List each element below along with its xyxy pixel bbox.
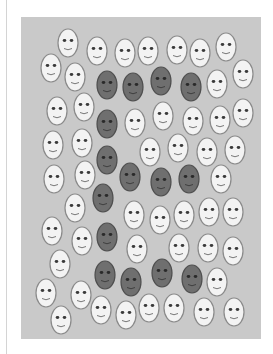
dark-face-icon — [94, 260, 116, 290]
light-face-icon — [124, 108, 146, 138]
light-face-icon — [152, 101, 174, 131]
light-face-icon — [182, 106, 204, 136]
dark-face-icon — [178, 164, 200, 194]
dark-face-icon — [180, 72, 202, 102]
dark-face-icon — [96, 145, 118, 175]
light-face-icon — [167, 133, 189, 163]
light-face-icon — [71, 128, 93, 158]
dark-face-icon — [92, 183, 114, 213]
light-face-icon — [166, 35, 188, 65]
light-face-icon — [114, 38, 136, 68]
light-face-icon — [232, 59, 254, 89]
light-face-icon — [209, 105, 231, 135]
light-face-icon — [189, 38, 211, 68]
light-face-icon — [64, 62, 86, 92]
dark-face-icon — [151, 258, 173, 288]
light-face-icon — [41, 216, 63, 246]
light-face-icon — [43, 164, 65, 194]
light-face-icon — [232, 98, 254, 128]
light-face-icon — [149, 205, 171, 235]
light-face-icon — [222, 197, 244, 227]
light-face-icon — [137, 36, 159, 66]
light-face-icon — [210, 164, 232, 194]
light-face-icon — [215, 32, 237, 62]
light-face-icon — [126, 234, 148, 264]
light-face-icon — [40, 53, 62, 83]
light-face-icon — [115, 300, 137, 330]
light-face-icon — [86, 36, 108, 66]
light-face-icon — [42, 130, 64, 160]
light-face-icon — [138, 293, 160, 323]
dark-face-icon — [119, 162, 141, 192]
left-border-line — [6, 0, 7, 354]
light-face-icon — [90, 295, 112, 325]
light-face-icon — [193, 297, 215, 327]
light-face-icon — [173, 200, 195, 230]
light-face-icon — [224, 135, 246, 165]
light-face-icon — [222, 236, 244, 266]
light-face-icon — [35, 278, 57, 308]
light-face-icon — [206, 267, 228, 297]
light-face-icon — [163, 293, 185, 323]
light-face-icon — [49, 249, 71, 279]
light-face-icon — [50, 305, 72, 335]
light-face-icon — [73, 92, 95, 122]
light-face-icon — [71, 226, 93, 256]
dark-face-icon — [150, 167, 172, 197]
dark-face-icon — [150, 66, 172, 96]
light-face-icon — [64, 193, 86, 223]
light-face-icon — [139, 137, 161, 167]
light-face-icon — [46, 96, 68, 126]
light-face-icon — [196, 137, 218, 167]
light-face-icon — [197, 233, 219, 263]
dark-face-icon — [96, 70, 118, 100]
dark-face-icon — [96, 109, 118, 139]
light-face-icon — [223, 297, 245, 327]
light-face-icon — [70, 280, 92, 310]
dark-face-icon — [96, 222, 118, 252]
light-face-icon — [198, 197, 220, 227]
dark-face-icon — [122, 72, 144, 102]
dark-face-icon — [181, 264, 203, 294]
light-face-icon — [206, 69, 228, 99]
light-face-icon — [123, 200, 145, 230]
